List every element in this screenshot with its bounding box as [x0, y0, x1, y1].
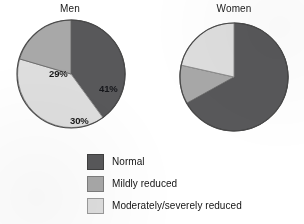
legend-label-normal: Normal — [112, 155, 145, 168]
legend: Normal Mildly reduced Moderately/severel… — [87, 152, 297, 218]
pie-chart-men: 41% 29% 30% — [16, 19, 126, 129]
pie-chart-women: 67% 12% 21% — [179, 21, 289, 133]
legend-label-moderately-severely-reduced: Moderately/severely reduced — [112, 199, 242, 212]
legend-swatch-moderately-severely-reduced — [87, 198, 104, 214]
pie-women-svg — [179, 21, 289, 133]
pie-men-label-normal: 41% — [99, 84, 118, 94]
pie-men-label-moderately-severely-reduced: 29% — [49, 69, 68, 79]
pie-chart-figure: Men 41% 29% 30% Women 67% 12% 21% Normal — [0, 0, 304, 224]
legend-item-mildly-reduced: Mildly reduced — [87, 174, 297, 196]
chart-title-men: Men — [20, 3, 120, 15]
pie-men-label-mildly-reduced: 30% — [70, 116, 89, 126]
legend-item-normal: Normal — [87, 152, 297, 174]
legend-label-mildly-reduced: Mildly reduced — [112, 177, 177, 190]
chart-title-women: Women — [184, 3, 284, 15]
legend-swatch-normal — [87, 154, 104, 170]
legend-swatch-mildly-reduced — [87, 176, 104, 192]
legend-item-moderately-severely-reduced: Moderately/severely reduced — [87, 196, 297, 218]
pie-men-svg — [16, 19, 126, 129]
